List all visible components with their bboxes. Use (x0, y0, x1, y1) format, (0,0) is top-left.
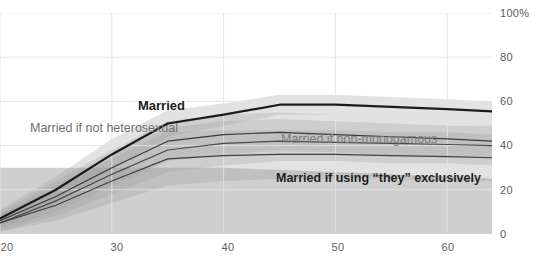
x-tick-30: 30 (111, 242, 124, 253)
uncertainty-bands-group (0, 95, 492, 234)
y-tick-0: 0 (500, 229, 506, 240)
y-tick-60: 60 (500, 96, 513, 107)
y-tick-100: 100% (500, 8, 529, 19)
x-tick-60: 60 (442, 242, 455, 253)
x-tick-20: 20 (1, 242, 14, 253)
chart-container: 100% 80 60 40 20 0 20 30 40 50 60 Marrie… (0, 0, 537, 260)
chart-svg (0, 13, 492, 234)
x-tick-40: 40 (222, 242, 235, 253)
y-tick-20: 20 (500, 185, 513, 196)
y-tick-40: 40 (500, 140, 513, 151)
y-tick-80: 80 (500, 52, 513, 63)
x-tick-50: 50 (332, 242, 345, 253)
plot-area (0, 13, 492, 234)
